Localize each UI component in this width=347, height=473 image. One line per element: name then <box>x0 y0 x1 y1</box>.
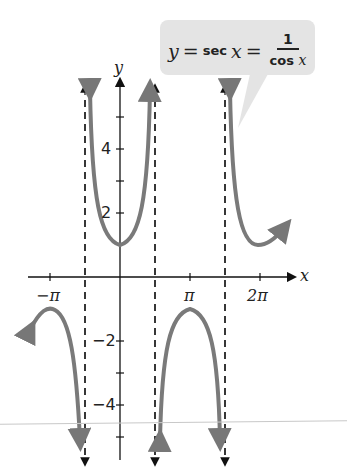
tick-yn2: −2 <box>92 331 116 350</box>
callout-pointer <box>238 74 268 128</box>
tick-y4: 4 <box>101 139 111 158</box>
equation: y= secx = 1 cos x <box>168 30 306 71</box>
tick-pi: π <box>184 286 195 305</box>
x-axis-label: x <box>300 266 309 285</box>
tick-neg-pi: −π <box>36 286 60 305</box>
tick-y2: 2 <box>101 203 111 222</box>
branch-right <box>230 90 284 245</box>
branch-pi <box>160 309 220 440</box>
secant-curves <box>30 90 284 440</box>
branch-left <box>30 309 80 440</box>
y-axis-label: y <box>114 58 123 77</box>
tick-two-pi: 2π <box>247 286 268 305</box>
fraction: 1 cos x <box>270 30 307 71</box>
tick-yn4: −4 <box>92 395 116 414</box>
